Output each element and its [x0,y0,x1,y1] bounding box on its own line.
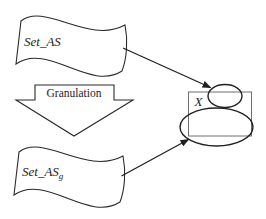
set-as-label: Set_AS [24,34,61,49]
set-as-g-node: Set_ASg [14,147,125,207]
edge-setas-to-small-ellipse [123,48,211,88]
diagram-svg: X Set_AS Granulation Set_ASg [0,0,266,219]
set-as-g-label-base: Set_AS [22,164,59,179]
set-as-node: Set_AS [16,16,127,76]
granule-large-ellipse [180,108,253,146]
set-as-g-label-subscript: g [59,171,64,181]
granulation-label: Granulation [47,87,102,99]
figure-canvas: X Set_AS Granulation Set_ASg [0,0,266,219]
edge-setasg-to-large-ellipse [122,140,189,177]
granule-small-ellipse [208,85,242,108]
granulation-process: Granulation [16,85,133,136]
x-container-label: X [194,94,204,109]
set-as-g-label: Set_ASg [22,164,64,181]
